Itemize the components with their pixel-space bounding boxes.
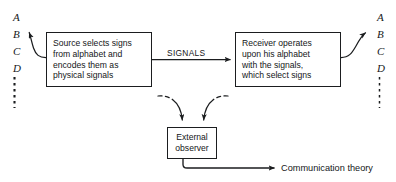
left-alphabet-letter-c: C <box>13 46 20 57</box>
connector-source-to-observer-dashed <box>158 96 173 100</box>
communication-theory-label: Communication theory <box>281 163 373 173</box>
right-alphabet-letter-b: B <box>377 29 384 40</box>
source-box-line-1: Source selects signs <box>47 38 151 49</box>
source-box: Source selects signs from alphabet and e… <box>46 32 152 87</box>
connector-receiver-to-observer <box>204 100 214 121</box>
left-alphabet-letter-d: D <box>13 63 21 74</box>
connector-observer-to-communication-theory <box>183 159 275 168</box>
connector-source-to-left-alphabet <box>29 33 46 58</box>
source-box-line-3: encodes them as <box>47 60 151 71</box>
right-alphabet-letter-c: C <box>377 46 384 57</box>
receiver-box-line-1: Receiver operates <box>236 38 340 49</box>
communication-model-diagram: A B C D A B C D Source selects signs fro… <box>0 0 396 182</box>
external-observer-box: External observer <box>167 127 217 159</box>
right-alphabet-letter-a: A <box>377 12 384 23</box>
left-alphabet-letter-b: B <box>13 29 20 40</box>
left-alphabet-letter-a: A <box>13 12 20 23</box>
connector-receiver-to-right-alphabet <box>341 33 366 58</box>
right-alphabet-letter-d: D <box>377 63 385 74</box>
receiver-box-line-4: which select signs <box>236 70 340 81</box>
source-box-line-2: from alphabet and <box>47 49 151 60</box>
observer-box-line-1: External <box>168 132 216 143</box>
receiver-box-line-2: upon his alphabet <box>236 49 340 60</box>
signals-label: SIGNALS <box>167 48 205 58</box>
connector-receiver-to-observer-dashed <box>214 96 229 100</box>
source-box-line-4: physical signals <box>47 70 151 81</box>
observer-box-line-2: observer <box>168 143 216 154</box>
connector-source-to-observer <box>173 100 183 121</box>
receiver-box: Receiver operates upon his alphabet with… <box>235 32 341 87</box>
receiver-box-line-3: with the signals, <box>236 60 340 71</box>
